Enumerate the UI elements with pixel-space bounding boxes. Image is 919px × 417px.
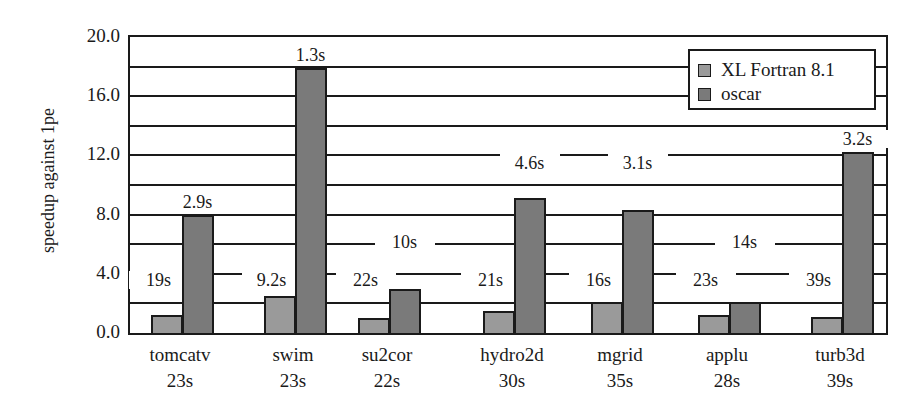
- bar-turb3d-oscar: [842, 152, 874, 333]
- bar-su2cor-oscar: [389, 289, 421, 333]
- category-label: su2cor: [337, 342, 437, 368]
- bar-annotation: 4.6s: [500, 154, 560, 172]
- x-category-mgrid: mgrid35s: [570, 342, 670, 394]
- category-sublabel: 23s: [130, 368, 230, 394]
- x-category-tomcatv: tomcatv23s: [130, 342, 230, 394]
- legend-swatch-xl-fortran: [698, 64, 711, 77]
- gridline: [130, 214, 886, 216]
- bar-annotation: 23s: [676, 271, 736, 289]
- bar-mgrid-oscar: [622, 210, 654, 333]
- bar-annotation: 3.2s: [828, 130, 888, 148]
- y-tick-label: 16.0: [50, 85, 120, 105]
- category-sublabel: 30s: [462, 368, 562, 394]
- bar-hydro2d-xl-fortran: [483, 311, 515, 333]
- x-category-swim: swim23s: [243, 342, 343, 394]
- y-tick-label: 0.0: [50, 322, 120, 342]
- legend-item-oscar: oscar: [698, 83, 761, 105]
- bar-annotation: 21s: [461, 271, 521, 289]
- bar-annotation: 39s: [789, 271, 849, 289]
- bar-applu-oscar: [729, 302, 761, 333]
- bar-annotation: 14s: [715, 233, 775, 251]
- bar-swim-oscar: [295, 68, 327, 333]
- bar-annotation: 19s: [129, 271, 189, 289]
- category-sublabel: 35s: [570, 368, 670, 394]
- bar-tomcatv-oscar: [182, 215, 214, 333]
- y-axis-label: speedup against 1pe: [38, 81, 59, 281]
- bar-annotation: 16s: [569, 271, 629, 289]
- x-category-applu: applu28s: [677, 342, 777, 394]
- category-label: swim: [243, 342, 343, 368]
- category-label: mgrid: [570, 342, 670, 368]
- gridline: [130, 125, 886, 127]
- category-sublabel: 39s: [790, 368, 890, 394]
- bar-hydro2d-oscar: [514, 198, 546, 333]
- bar-annotation: 2.9s: [168, 193, 228, 211]
- bar-annotation: 9.2s: [242, 271, 302, 289]
- legend-swatch-oscar: [698, 88, 711, 101]
- gridline: [130, 184, 886, 186]
- x-category-hydro2d: hydro2d30s: [462, 342, 562, 394]
- y-tick-label: 20.0: [50, 26, 120, 46]
- category-label: turb3d: [790, 342, 890, 368]
- chart-figure: speedup against 1pe 0.04.08.012.016.020.…: [0, 0, 919, 417]
- category-label: hydro2d: [462, 342, 562, 368]
- bar-annotation: 10s: [375, 233, 435, 251]
- category-label: applu: [677, 342, 777, 368]
- bar-annotation: 1.3s: [281, 46, 341, 64]
- category-sublabel: 23s: [243, 368, 343, 394]
- x-category-su2cor: su2cor22s: [337, 342, 437, 394]
- bar-annotation: 3.1s: [608, 154, 668, 172]
- legend-label: XL Fortran 8.1: [721, 59, 835, 81]
- bar-su2cor-xl-fortran: [358, 318, 390, 333]
- x-category-turb3d: turb3d39s: [790, 342, 890, 394]
- category-sublabel: 28s: [677, 368, 777, 394]
- bar-applu-xl-fortran: [698, 315, 730, 333]
- bar-swim-xl-fortran: [264, 296, 296, 333]
- y-tick-label: 4.0: [50, 263, 120, 283]
- bar-annotation: 22s: [336, 271, 396, 289]
- bar-tomcatv-xl-fortran: [151, 315, 183, 333]
- category-sublabel: 22s: [337, 368, 437, 394]
- legend-label: oscar: [721, 83, 761, 105]
- gridline: [130, 302, 886, 304]
- y-tick-label: 12.0: [50, 144, 120, 164]
- bar-mgrid-xl-fortran: [591, 302, 623, 333]
- legend: XL Fortran 8.1 oscar: [688, 49, 876, 110]
- category-label: tomcatv: [130, 342, 230, 368]
- bar-turb3d-xl-fortran: [811, 317, 843, 333]
- y-tick-label: 8.0: [50, 204, 120, 224]
- legend-item-xl-fortran: XL Fortran 8.1: [698, 59, 835, 81]
